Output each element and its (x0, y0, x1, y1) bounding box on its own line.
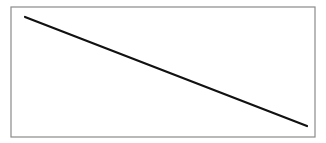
diagram-canvas (0, 0, 326, 143)
frame-border (11, 7, 315, 137)
